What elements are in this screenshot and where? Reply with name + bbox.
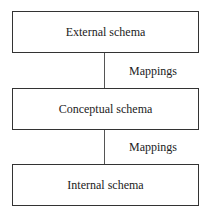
mappings-label-2: Mappings	[129, 140, 177, 155]
conceptual-schema-box: Conceptual schema	[12, 88, 199, 130]
connector-line-1	[104, 53, 105, 88]
connector-line-2	[104, 130, 105, 165]
internal-schema-label: Internal schema	[67, 178, 143, 193]
external-schema-label: External schema	[66, 25, 146, 40]
mappings-label-1: Mappings	[129, 64, 177, 79]
external-schema-box: External schema	[12, 11, 199, 53]
internal-schema-box: Internal schema	[12, 164, 199, 206]
schema-diagram: External schema Mappings Conceptual sche…	[0, 0, 212, 216]
conceptual-schema-label: Conceptual schema	[59, 102, 153, 117]
